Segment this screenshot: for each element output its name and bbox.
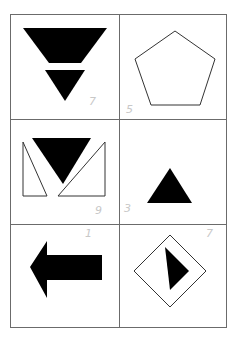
cell-3: 9 — [11, 120, 119, 224]
cell-4: 3 — [120, 120, 228, 224]
handwritten-note: 9 — [95, 204, 102, 217]
handwritten-note: 5 — [126, 103, 133, 116]
cell-2: 5 — [120, 15, 228, 119]
diamond-with-triangle-icon — [120, 225, 228, 329]
handwritten-note: 7 — [89, 95, 96, 108]
double-inverted-triangle-icon — [11, 15, 119, 119]
pentagon-icon — [120, 15, 228, 119]
cell-6: 7 — [120, 225, 228, 329]
handwritten-note: 3 — [124, 202, 131, 215]
handwritten-note: 1 — [85, 227, 92, 240]
shape-grid: 7 5 9 3 1 7 — [10, 14, 227, 328]
triangle-icon — [120, 120, 228, 224]
triangle-composition-icon — [11, 120, 119, 224]
cell-5: 1 — [11, 225, 119, 329]
left-arrow-icon — [11, 225, 119, 329]
cell-1: 7 — [11, 15, 119, 119]
handwritten-note: 7 — [206, 227, 213, 240]
